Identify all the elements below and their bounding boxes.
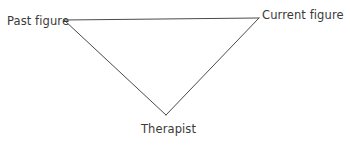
edge-current-figure-to-therapist [166, 18, 259, 115]
diagram-canvas: Past figure Current figure Therapist [0, 0, 350, 151]
edge-past-figure-to-current-figure [64, 18, 259, 20]
node-label-past-figure: Past figure [7, 15, 69, 28]
node-label-therapist: Therapist [141, 123, 196, 136]
node-label-current-figure: Current figure [262, 9, 344, 22]
edge-therapist-to-past-figure [64, 20, 166, 115]
